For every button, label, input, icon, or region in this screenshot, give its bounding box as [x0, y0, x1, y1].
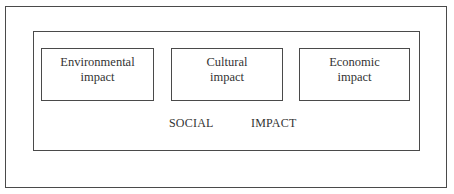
- economic-impact-line-2: impact: [300, 70, 409, 85]
- cultural-impact-box: Cultural impact: [171, 48, 283, 101]
- cultural-impact-line-1: Cultural: [172, 55, 282, 70]
- economic-impact-line-1: Economic: [300, 55, 409, 70]
- environmental-impact-box: Environmental impact: [41, 48, 154, 101]
- cultural-impact-line-2: impact: [172, 70, 282, 85]
- impact-label: IMPACT: [251, 116, 296, 131]
- economic-impact-box: Economic impact: [299, 48, 410, 101]
- social-label: SOCIAL: [169, 116, 214, 131]
- environmental-impact-line-1: Environmental: [42, 55, 153, 70]
- environmental-impact-line-2: impact: [42, 70, 153, 85]
